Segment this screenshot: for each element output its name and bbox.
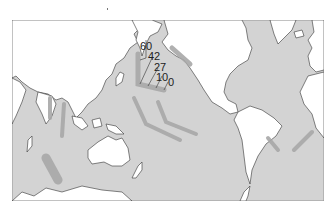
stray-mark <box>107 8 108 10</box>
track-ninetyeast <box>62 104 64 136</box>
world-map: 60 42 27 10 0 <box>12 20 324 201</box>
age-label-10: 10 <box>156 71 168 83</box>
age-label-0: 0 <box>168 76 174 88</box>
